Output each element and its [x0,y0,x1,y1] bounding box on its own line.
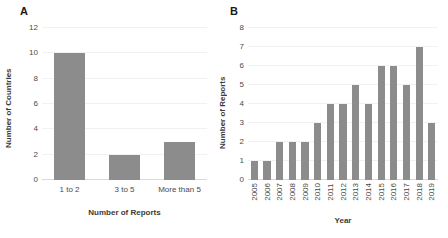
x-tick-label: 2015 [375,180,388,201]
y-tick-label: 6 [34,99,38,108]
bar [378,66,385,180]
panel-a-x-tick-labels: 1 to 23 to 5More than 5 [42,180,207,194]
y-tick-label: 4 [240,99,244,108]
bar-cell [286,28,299,180]
x-tick-label: 3 to 5 [97,185,152,194]
bar [339,104,346,180]
y-tick-label: 7 [240,42,244,51]
bar-cell [273,28,286,180]
x-tick-label-text: 2019 [427,183,436,201]
x-tick-label: 2014 [362,180,375,201]
bar [276,142,283,180]
bar-cell [387,28,400,180]
bar-cell [299,28,312,180]
bar [54,53,86,180]
panel-b-x-tick-labels: 2005200620072008200920102011201220132014… [248,180,438,201]
x-tick-label: 2019 [425,180,438,201]
bar-cell [42,28,97,180]
bar [403,85,410,180]
panel-a-letter: A [20,5,28,17]
bar [365,104,372,180]
x-tick-label: 2016 [387,180,400,201]
bar [263,161,270,180]
x-tick-label: 2005 [248,180,261,201]
panel-a-y-axis-title: Number of Countries [4,48,13,168]
bar [109,155,141,180]
y-tick-label: 3 [240,118,244,127]
x-tick-label-text: 2009 [301,183,310,201]
y-tick-label: 8 [34,73,38,82]
bar [289,142,296,180]
x-tick-label: 2017 [400,180,413,201]
y-tick-label: 1 [240,156,244,165]
x-tick-label: 2011 [324,180,337,201]
panel-a: A Number of Countries 024681012 1 to 23 … [0,0,224,238]
bar-cell [362,28,375,180]
x-tick-label: 1 to 2 [42,185,97,194]
bar [416,47,423,180]
panel-b-letter: B [230,5,238,17]
y-tick-label: 4 [34,124,38,133]
panel-a-plot-area: 024681012 1 to 23 to 5More than 5 [42,28,207,180]
x-tick-label: 2006 [261,180,274,201]
panel-b-y-axis-title: Number of Reports [218,58,227,168]
y-tick-label: 8 [240,23,244,32]
bar [251,161,258,180]
y-tick-label: 5 [240,80,244,89]
x-tick-label: 2008 [286,180,299,201]
bar-cell [349,28,362,180]
x-tick-label: 2018 [413,180,426,201]
bar-cell [324,28,337,180]
bar-cell [413,28,426,180]
bar-cell [375,28,388,180]
bar [352,85,359,180]
x-tick-label-text: 2011 [326,183,335,201]
x-tick-label-text: 2012 [339,183,348,201]
bar-cell [261,28,274,180]
figure-two-panel-bar-charts: A Number of Countries 024681012 1 to 23 … [0,0,448,238]
y-tick-label: 2 [240,137,244,146]
x-tick-label-text: 2010 [313,183,322,201]
bar-cell [311,28,324,180]
bar-cell [337,28,350,180]
bar-cell [400,28,413,180]
x-tick-label-text: 2013 [351,183,360,201]
panel-b: B Number of Reports 012345678 2005200620… [224,0,448,238]
x-tick-label-text: 2005 [250,183,259,201]
x-tick-label-text: 2015 [377,183,386,201]
panel-a-bars [42,28,207,180]
y-tick-label: 0 [34,175,38,184]
panel-b-plot-area: 012345678 200520062007200820092010201120… [248,28,438,180]
x-tick-label: More than 5 [152,185,207,194]
x-tick-label: 2013 [349,180,362,201]
bar [428,123,435,180]
panel-a-x-axis-title: Number of Reports [42,208,207,217]
bar [327,104,334,180]
panel-b-bars [248,28,438,180]
x-tick-label-text: 2014 [364,183,373,201]
x-tick-label-text: 2016 [389,183,398,201]
x-tick-label: 2007 [273,180,286,201]
bar-cell [248,28,261,180]
x-tick-label: 2009 [299,180,312,201]
x-tick-label: 2010 [311,180,324,201]
x-tick-label-text: 2018 [415,183,424,201]
x-tick-label-text: 2006 [263,183,272,201]
bar-cell [152,28,207,180]
y-tick-label: 2 [34,149,38,158]
x-tick-label-text: 2007 [275,183,284,201]
x-tick-label-text: 2017 [402,183,411,201]
bar [301,142,308,180]
bar-cell [97,28,152,180]
bar [390,66,397,180]
x-tick-label-text: 2008 [288,183,297,201]
bar [164,142,196,180]
bar-cell [425,28,438,180]
y-tick-label: 12 [29,23,38,32]
x-tick-label: 2012 [337,180,350,201]
panel-b-x-axis-title: Year [248,216,438,225]
y-tick-label: 10 [29,48,38,57]
y-tick-label: 0 [240,175,244,184]
y-tick-label: 6 [240,61,244,70]
bar [314,123,321,180]
